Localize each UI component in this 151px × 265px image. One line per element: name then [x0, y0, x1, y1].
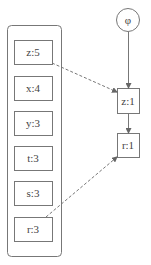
group-container — [8, 26, 62, 257]
node-label-z5: z:5 — [14, 47, 52, 58]
edge-r3-r1 — [46, 157, 117, 217]
node-label-r1: r:1 — [117, 140, 139, 151]
node-label-r3: r:3 — [14, 224, 52, 235]
node-label-t3: t:3 — [14, 153, 52, 164]
node-label-z1: z:1 — [117, 96, 139, 107]
node-label-x4: x:4 — [14, 83, 52, 94]
node-label-s3: s:3 — [14, 188, 52, 199]
root-label: φ — [116, 15, 140, 26]
node-label-y3: y:3 — [14, 118, 52, 129]
